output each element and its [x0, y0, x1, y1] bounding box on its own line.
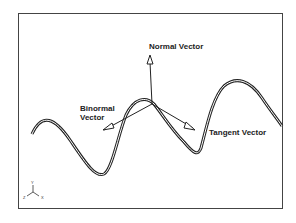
- axis-y-label: Y: [31, 180, 34, 185]
- binormal-vector-label-1: Binormal: [80, 104, 115, 113]
- binormal-vector-label-2: Vector: [80, 113, 104, 122]
- curve-diagram: [0, 0, 296, 223]
- normal-vector-arrow: [147, 55, 153, 104]
- axis-triad: [27, 185, 39, 196]
- tangent-vector-arrow: [152, 104, 195, 130]
- axis-x-label: X: [41, 195, 44, 200]
- axis-z-label: Z: [23, 195, 25, 200]
- normal-vector-label: Normal Vector: [149, 42, 203, 51]
- tangent-vector-label: Tangent Vector: [209, 128, 266, 137]
